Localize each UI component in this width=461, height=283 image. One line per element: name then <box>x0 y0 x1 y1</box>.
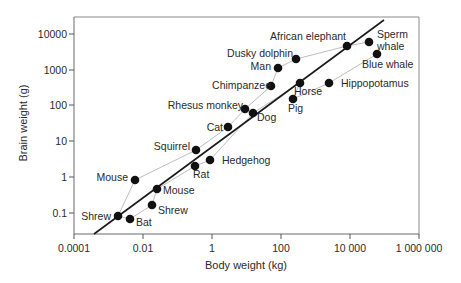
point-labels: Shrew Bat Mouse Mouse Shrew Squirrel Rat… <box>81 28 413 228</box>
point-cat <box>224 123 233 132</box>
x-axis: 0.0001 0.01 1 100 10 000 1 000 000 Body … <box>58 234 443 271</box>
label-rhesus-monkey: Rhesus monkey <box>168 99 244 111</box>
label-dusky-dolphin: Dusky dolphin <box>227 47 293 59</box>
x-tick-label: 0.0001 <box>58 242 90 254</box>
label-sperm-whale-1: Sperm <box>377 28 408 40</box>
y-tick-label: 10 <box>55 135 67 147</box>
label-shrew: Shrew <box>81 210 111 222</box>
x-tick-label: 0.01 <box>133 242 154 254</box>
label-sperm-whale-2: whale <box>376 40 405 52</box>
point-sperm-whale <box>365 38 374 47</box>
x-tick-label: 100 <box>272 242 290 254</box>
y-tick-label: 1000 <box>44 64 68 76</box>
label-chimpanzee: Chimpanzee <box>212 79 271 91</box>
point-hippopotamus <box>325 79 334 88</box>
x-tick-label: 1 000 000 <box>396 242 443 254</box>
point-shrew <box>114 212 123 221</box>
label-blue-whale: Blue whale <box>362 58 414 70</box>
point-shrew-lower <box>148 201 157 210</box>
data-points <box>114 38 382 224</box>
label-squirrel: Squirrel <box>154 140 190 152</box>
x-tick-label: 10 000 <box>334 242 366 254</box>
point-dog <box>249 109 258 118</box>
label-dog: Dog <box>257 111 276 123</box>
y-tick-label: 10000 <box>38 28 67 40</box>
label-bat: Bat <box>136 216 152 228</box>
point-mouse-upper <box>131 176 140 185</box>
label-horse: Horse <box>294 85 322 97</box>
point-hedgehog <box>206 156 215 165</box>
point-african-elephant <box>343 42 352 51</box>
label-shrew-lower: Shrew <box>158 204 188 216</box>
point-squirrel <box>192 146 201 155</box>
y-axis-label: Brain weight (g) <box>17 84 29 161</box>
label-rat: Rat <box>193 168 209 180</box>
brain-body-scatter-chart: 10000 1000 100 10 1 0.1 Brain weight (g)… <box>0 0 461 283</box>
label-mouse-upper: Mouse <box>96 171 128 183</box>
x-tick-label: 1 <box>209 242 215 254</box>
label-pig: Pig <box>288 102 303 114</box>
y-axis: 10000 1000 100 10 1 0.1 Brain weight (g) <box>17 28 74 219</box>
label-hippopotamus: Hippopotamus <box>341 77 409 89</box>
point-man <box>274 64 283 73</box>
point-mouse-line <box>153 185 162 194</box>
x-axis-label: Body weight (kg) <box>205 259 287 271</box>
label-man: Man <box>251 60 272 72</box>
label-mouse-line: Mouse <box>163 184 195 196</box>
point-bat <box>126 215 135 224</box>
label-african-elephant: African elephant <box>270 30 346 42</box>
y-tick-label: 1 <box>61 171 67 183</box>
label-cat: Cat <box>207 121 223 133</box>
y-tick-label: 0.1 <box>52 207 67 219</box>
y-tick-label: 100 <box>49 99 67 111</box>
label-hedgehog: Hedgehog <box>222 154 271 166</box>
